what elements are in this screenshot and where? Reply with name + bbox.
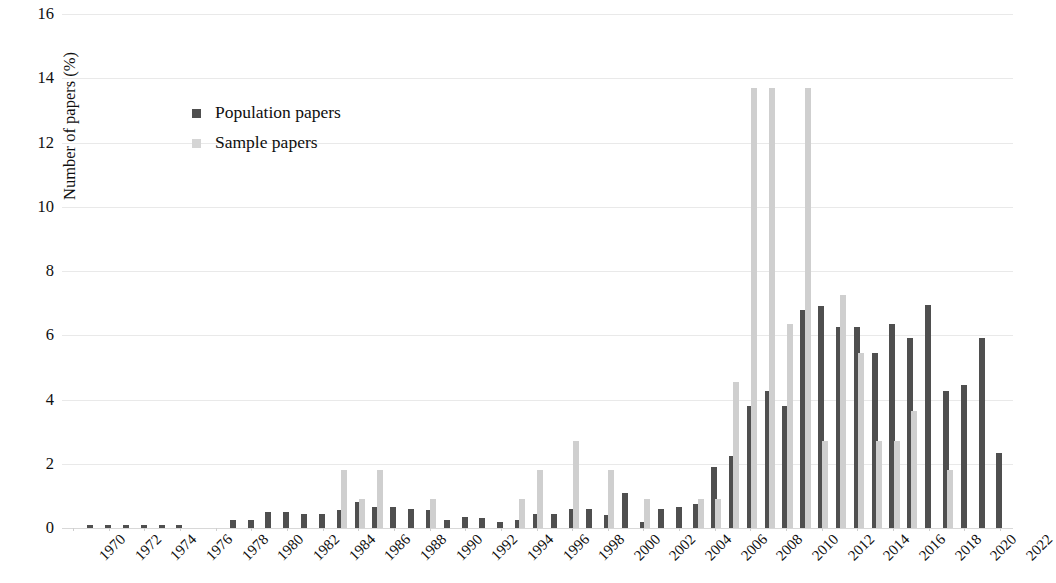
x-axis-tick-mark: [251, 528, 252, 531]
x-axis-tick-label: 2022: [1023, 531, 1056, 564]
legend-item-population: Population papers: [192, 98, 341, 128]
plot-area: Number of papers (%) 0246810121416 Popul…: [62, 14, 1013, 528]
bar-sample-2005: [698, 499, 704, 528]
x-axis-tick-label: 1992: [488, 531, 521, 564]
legend: Population papers Sample papers: [192, 98, 341, 158]
bar-population-1984: [319, 514, 325, 528]
bar-sample-1998: [573, 441, 579, 528]
bar-sample-2007: [733, 382, 739, 528]
x-axis-tick-label: 1974: [167, 531, 200, 564]
y-axis-tick-label: 10: [14, 199, 54, 216]
bar-population-1973: [123, 525, 129, 528]
bar-population-1971: [87, 525, 93, 528]
bar-population-1979: [230, 520, 236, 528]
x-axis-tick-mark: [144, 528, 145, 531]
bar-sample-1995: [519, 499, 525, 528]
x-axis-tick-mark: [323, 528, 324, 531]
bar-sample-2000: [608, 470, 614, 528]
x-axis-tick-label: 1976: [203, 531, 236, 564]
x-axis-tick-label: 2004: [702, 531, 735, 564]
x-axis-tick-mark: [929, 528, 930, 531]
y-axis-tick-label: 12: [14, 134, 54, 151]
bar-sample-2012: [822, 441, 828, 528]
x-axis-tick-label: 1988: [417, 531, 450, 564]
bar-population-2003: [658, 509, 664, 528]
bar-sample-1996: [537, 470, 543, 528]
bar-sample-2009: [769, 88, 775, 528]
y-axis-tick-label: 6: [14, 327, 54, 344]
x-axis-tick-label: 1970: [96, 531, 129, 564]
bar-population-2004: [676, 507, 682, 528]
bar-population-1982: [283, 512, 289, 528]
bar-population-2018: [925, 305, 931, 528]
x-axis-tick-label: 2002: [666, 531, 699, 564]
x-axis-tick-mark: [643, 528, 644, 531]
x-axis-tick-label: 1978: [238, 531, 271, 564]
bar-sample-2010: [787, 324, 793, 528]
x-axis-tick-mark: [501, 528, 502, 531]
legend-label-population: Population papers: [215, 104, 341, 122]
x-axis-tick-label: 2016: [916, 531, 949, 564]
bar-sample-2017: [911, 411, 917, 528]
x-axis-tick-mark: [358, 528, 359, 531]
bar-population-1975: [159, 525, 165, 528]
x-axis-tick-mark: [465, 528, 466, 531]
bar-population-1981: [265, 512, 271, 528]
y-axis-tick-label: 16: [14, 6, 54, 23]
x-axis-tick-label: 2010: [809, 531, 842, 564]
bars-layer: [62, 14, 1013, 528]
x-axis-tick-label: 1994: [524, 531, 557, 564]
x-axis-tick-label: 1984: [345, 531, 378, 564]
bar-sample-1987: [377, 470, 383, 528]
x-axis-tick-mark: [857, 528, 858, 531]
x-axis-tick-label: 1998: [595, 531, 628, 564]
x-axis-tick-label: 1996: [559, 531, 592, 564]
bar-sample-2015: [876, 441, 882, 528]
x-axis-tick-mark: [394, 528, 395, 531]
y-axis-tick-label: 2: [14, 456, 54, 473]
x-axis-tick-mark: [572, 528, 573, 531]
y-axis-tick-label: 4: [14, 391, 54, 408]
x-axis-tick-label: 2006: [738, 531, 771, 564]
x-axis-tick-mark: [750, 528, 751, 531]
x-axis-tick-label: 2012: [845, 531, 878, 564]
x-axis-tick-mark: [180, 528, 181, 531]
x-axis-tick-mark: [822, 528, 823, 531]
x-axis-tick-mark: [893, 528, 894, 531]
x-axis-tick-mark: [608, 528, 609, 531]
bar-sample-1985: [341, 470, 347, 528]
bar-population-2001: [622, 493, 628, 528]
y-axis-tick-label: 8: [14, 263, 54, 280]
bar-population-1988: [390, 507, 396, 528]
bar-population-2021: [979, 338, 985, 528]
bar-population-2022: [996, 453, 1002, 528]
x-axis-ticks: 1970197219741976197819801982198419861988…: [62, 531, 1013, 583]
bar-population-2020: [961, 385, 967, 528]
x-axis-tick-label: 2018: [951, 531, 984, 564]
x-axis-tick-label: 2000: [631, 531, 664, 564]
bar-population-1980: [248, 520, 254, 528]
bar-population-1983: [301, 514, 307, 528]
x-axis-tick-mark: [715, 528, 716, 531]
x-axis-tick-mark: [964, 528, 965, 531]
bar-population-1991: [444, 520, 450, 528]
x-axis-tick-mark: [1000, 528, 1001, 531]
bar-sample-2011: [805, 88, 811, 528]
x-axis-tick-mark: [537, 528, 538, 531]
x-axis-tick-label: 1990: [452, 531, 485, 564]
y-axis-tick-label: 0: [14, 520, 54, 537]
bar-sample-1990: [430, 499, 436, 528]
bar-sample-2013: [840, 295, 846, 528]
x-axis-baseline: [62, 528, 1013, 529]
x-axis-tick-mark: [109, 528, 110, 531]
x-axis-tick-label: 2008: [773, 531, 806, 564]
x-axis-tick-mark: [679, 528, 680, 531]
x-axis-tick-label: 2020: [987, 531, 1020, 564]
bar-population-1993: [479, 518, 485, 528]
x-axis-tick-mark: [73, 528, 74, 531]
y-axis-tick-label: 14: [14, 70, 54, 87]
legend-label-sample: Sample papers: [215, 134, 318, 152]
x-axis-tick-label: 2014: [880, 531, 913, 564]
x-axis-tick-label: 1972: [131, 531, 164, 564]
